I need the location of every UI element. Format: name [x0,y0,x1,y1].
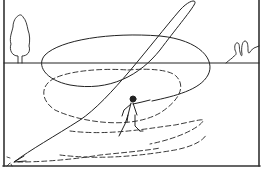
solid-flight-path [14,1,210,162]
dashed-spiral-path-lower-3 [18,148,160,162]
illustration [0,0,264,179]
dashed-spiral-path-lower-2 [60,135,206,157]
dashed-spiral-path [44,69,181,122]
impact-marks [7,157,12,166]
tree-icon [10,15,29,63]
dashed-spiral-path-lower-1 [70,120,203,144]
illustration-canvas [0,0,264,179]
arrowhead-icon [14,156,26,162]
bushes-icon [226,41,259,63]
frame [3,0,260,166]
